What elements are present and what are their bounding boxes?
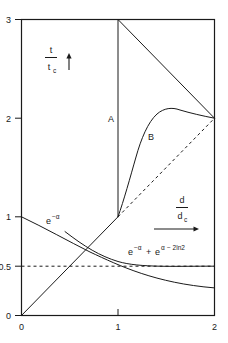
y-tick-label-0-5: 0.5	[0, 262, 11, 272]
y-tick-label-1: 1	[6, 212, 11, 222]
x-tick-label-1: 1	[115, 322, 120, 332]
y-axis-numerator: t	[50, 45, 53, 55]
curve-label-exp-neg-alpha-base: e	[46, 216, 51, 226]
y-tick-label-3: 3	[6, 15, 11, 25]
up-arrow-icon	[66, 53, 71, 70]
curve-label-exp-neg-alpha-sup: −α	[52, 213, 60, 220]
y-tick-label-0: 0	[6, 311, 11, 321]
y-axis-ticks	[15, 20, 22, 316]
series-diagonal-dashed	[118, 118, 215, 217]
curve-label-exp-sum: e −α + e α − 2ln2	[128, 244, 185, 257]
y-axis-label: t t c	[45, 45, 72, 74]
x-axis-denominator: d	[177, 211, 182, 221]
curve-label-exp-neg-alpha: e −α	[46, 213, 60, 226]
branch-b-label: B	[148, 132, 154, 142]
curve-label-exp-sum-plus: +	[146, 247, 151, 257]
y-axis-denominator-subscript: c	[53, 67, 57, 74]
series-upper-straight	[118, 20, 215, 119]
branch-a-label: A	[108, 114, 114, 124]
x-tick-label-2: 2	[212, 322, 217, 332]
series-branch-b	[118, 108, 215, 216]
x-axis-denominator-subscript: c	[184, 216, 188, 223]
curve-label-exp-sum-part1-base: e	[128, 247, 133, 257]
phase-diagram-plot: 3 2 1 0.5 0 0 1 2 t t c	[0, 0, 228, 343]
right-arrow-icon	[154, 226, 199, 231]
y-tick-label-2: 2	[6, 114, 11, 124]
curve-label-exp-sum-part2-base: e	[155, 247, 160, 257]
curve-label-exp-sum-part2-sup: α	[161, 244, 165, 251]
figure-root: 3 2 1 0.5 0 0 1 2 t t c	[0, 0, 228, 343]
series-exp-neg-alpha	[22, 217, 215, 288]
x-tick-label-0: 0	[19, 322, 24, 332]
y-axis-denominator: t	[48, 62, 51, 72]
x-axis-label: d d c	[154, 195, 199, 232]
curve-label-exp-sum-part1-sup: −α	[134, 244, 142, 251]
curve-label-exp-sum-tail: − 2ln2	[167, 244, 185, 251]
x-axis-numerator: d	[179, 195, 184, 205]
